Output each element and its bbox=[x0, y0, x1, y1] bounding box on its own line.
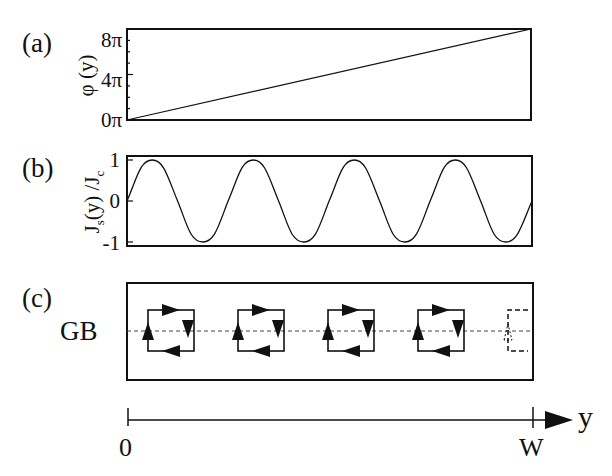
phase-line bbox=[127, 29, 531, 120]
panel-a-plot bbox=[127, 29, 531, 120]
panel-c-diagram bbox=[127, 283, 533, 380]
current-loop-1 bbox=[142, 304, 194, 357]
current-sine-curve bbox=[127, 160, 532, 242]
current-loop-2 bbox=[232, 304, 284, 357]
y-axis-arrow bbox=[128, 407, 573, 429]
panel-b-plot bbox=[127, 156, 532, 246]
figure-canvas bbox=[0, 0, 612, 476]
arrowhead-icon bbox=[545, 411, 573, 429]
